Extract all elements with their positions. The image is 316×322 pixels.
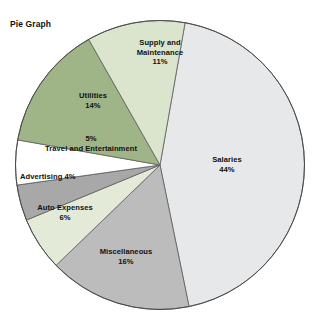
slice-label-utilities: Utilities 14% (58, 91, 128, 110)
slice-label-salaries: Salaries 44% (192, 155, 262, 174)
slice-label-utilities-value: 14% (58, 101, 128, 111)
slice-label-salaries-value: 44% (192, 165, 262, 175)
slice-label-utilities-name: Utilities (58, 91, 128, 101)
slice-label-travel-name: Travel and Entertainment (16, 144, 166, 154)
slice-label-miscellaneous-name: Miscellaneous (78, 247, 174, 257)
slice-label-miscellaneous-value: 16% (78, 257, 174, 267)
slice-label-auto-expenses-value: 6% (22, 213, 108, 223)
slice-label-travel-value: 5% (16, 134, 166, 144)
slice-label-auto-expenses: Auto Expenses 6% (22, 203, 108, 222)
slice-label-supply-value: 11% (118, 57, 202, 67)
pie-graph-figure: Pie Graph Salaries 44% Supply and Mainte… (0, 0, 316, 322)
slice-label-salaries-name: Salaries (192, 155, 262, 165)
slice-label-supply-name-line1: Supply and (118, 38, 202, 48)
slice-label-miscellaneous: Miscellaneous 16% (78, 247, 174, 266)
slice-label-travel-and-entertainment: 5% Travel and Entertainment (16, 134, 166, 153)
slice-label-supply-and-maintenance: Supply and Maintenance 11% (118, 38, 202, 67)
slice-label-advertising-text: Advertising 4% (20, 172, 130, 182)
slice-label-auto-expenses-name: Auto Expenses (22, 203, 108, 213)
slice-label-advertising: Advertising 4% (20, 172, 130, 182)
slice-label-supply-name-line2: Maintenance (118, 48, 202, 58)
